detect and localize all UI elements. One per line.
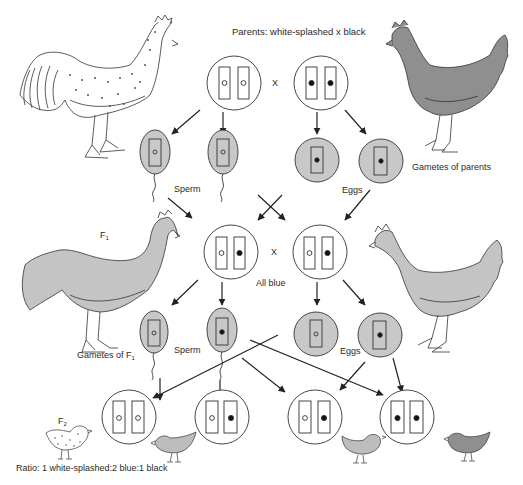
f2-genotype-black-black: [380, 390, 434, 444]
ratio-caption: Ratio: 1 white-splashed:2 blue:1 black: [16, 463, 168, 473]
white-splashed-chick-icon: [46, 426, 92, 459]
f2-genotype-white-white: [102, 390, 156, 444]
title: Parents: white-splashed x black: [232, 26, 366, 37]
label-sperm-parents: Sperm: [174, 184, 201, 194]
f1-female-genotype: [293, 225, 347, 279]
f2-genotype-white-black: [195, 390, 249, 444]
genetics-cross-diagram: [0, 0, 523, 485]
f1-subscript: 1: [106, 235, 109, 241]
cross-symbol-parents: X: [272, 78, 278, 88]
label-gametes-of-parents: Gametes of parents: [412, 162, 491, 172]
label-f2: F2: [58, 416, 67, 427]
label-eggs-f1: Eggs: [340, 346, 361, 356]
label-f1: F1: [100, 230, 109, 241]
f1-male-genotype: [204, 225, 258, 279]
f1-sperm-white: [140, 311, 168, 380]
gametes-f1-text: Gametes of F: [77, 350, 132, 360]
blue-chick-icon-2: [342, 434, 386, 463]
f2-genotype-white-black-2: [288, 390, 342, 444]
label-eggs-parents: Eggs: [342, 185, 363, 195]
parent-egg-1: [295, 138, 339, 182]
parent-female-genotype: [294, 56, 348, 110]
parent-male-genotype: [207, 56, 261, 110]
f1-egg-white: [294, 312, 338, 356]
blue-chick-icon: [151, 432, 196, 462]
f2-subscript: 2: [64, 421, 67, 427]
f1-egg-black: [358, 313, 402, 357]
f1-sperm-black: [207, 308, 237, 380]
label-all-blue: All blue: [256, 278, 286, 288]
gametes-f1-subscript: 1: [132, 355, 135, 361]
black-hen-icon: [386, 20, 508, 152]
label-gametes-of-f1: Gametes of F1: [77, 350, 135, 361]
black-chick-icon: [444, 432, 490, 461]
parent-egg-2: [359, 139, 403, 183]
cross-symbol-f1: X: [271, 247, 277, 257]
parent-sperm-2: [208, 130, 238, 202]
label-sperm-f1: Sperm: [174, 345, 201, 355]
parent-sperm-1: [140, 130, 170, 202]
